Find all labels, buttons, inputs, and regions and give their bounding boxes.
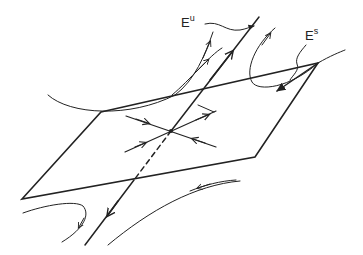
arrow-down-eu (108, 201, 118, 215)
arrow-stable-left (136, 119, 148, 123)
fixed-point (169, 129, 173, 133)
eu-sup: u (190, 13, 195, 23)
arrow-inplane-right (196, 115, 208, 120)
label-stable-manifold: Es (305, 27, 318, 43)
flow-curve-upper-left (48, 32, 213, 111)
arrow-inplane-left (135, 143, 145, 147)
flow-curve-lower-left (23, 203, 86, 242)
label-unstable-manifold: Eu (181, 14, 195, 30)
es-sup: s (314, 26, 319, 36)
arrow-up-eu (210, 52, 232, 80)
es-pointer (290, 45, 306, 80)
arrow-stable-right (193, 139, 205, 143)
flow-curve-top-right-in (198, 105, 214, 112)
eu-base: E (181, 15, 190, 30)
eu-pointer (205, 23, 254, 30)
es-base: E (305, 28, 314, 43)
flow-curve-lower-right-2 (108, 181, 240, 245)
